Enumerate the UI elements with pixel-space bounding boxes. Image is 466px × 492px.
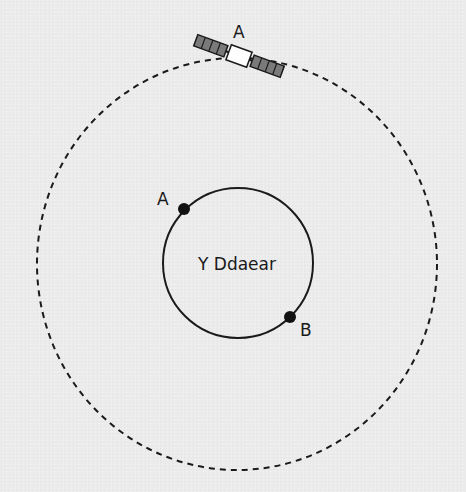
point-a-marker <box>178 203 190 215</box>
diagram-canvas: A A B Y Ddaear <box>0 0 466 492</box>
diagram-graphics <box>0 0 466 492</box>
satellite-label: A <box>233 24 245 41</box>
point-b-marker <box>284 311 296 323</box>
point-b-label: B <box>300 322 312 339</box>
earth-label: Y Ddaear <box>198 256 276 273</box>
left-solar-panel <box>194 35 228 57</box>
satellite-body <box>226 45 252 68</box>
right-solar-panel <box>250 55 284 77</box>
point-a-label: A <box>157 191 169 208</box>
